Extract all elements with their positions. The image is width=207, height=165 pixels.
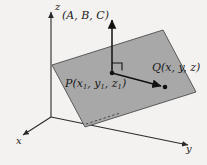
x-axis-line [23, 117, 51, 135]
point-p-dot [110, 71, 115, 76]
z-axis-label: z [55, 2, 60, 12]
point-p-label-mid1: , y [87, 77, 100, 90]
point-q-dot [163, 85, 168, 90]
point-p-label-mid2: , z [105, 77, 118, 90]
y-axis-line [51, 117, 188, 145]
normal-vector-label: (A, B, C) [62, 10, 109, 21]
point-p-label: P(x1, y1, z1) [65, 78, 126, 91]
normal-vector-label-text: (A, B, C) [62, 9, 109, 22]
point-p-label-tail: ) [122, 77, 126, 90]
x-axis-label: x [16, 136, 22, 146]
y-axis-label: y [186, 144, 192, 154]
point-q-label: Q(x, y, z) [152, 62, 200, 73]
plane-normal-vector-figure: z x y (A, B, C) P(x1, y1, z1) Q(x, y, z) [0, 0, 207, 165]
point-p-label-head: P(x [65, 77, 83, 90]
